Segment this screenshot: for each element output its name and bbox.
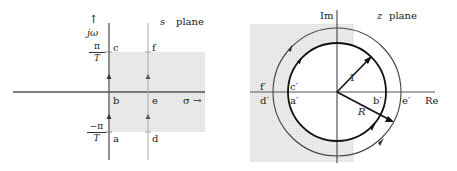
t-denominator: T	[87, 133, 106, 143]
s-plane-title-word: plane	[176, 17, 204, 27]
point-c: c	[113, 43, 119, 53]
s-plane	[13, 23, 205, 160]
point-e: e	[152, 96, 158, 106]
point-b: b	[113, 96, 119, 106]
point-a-prime: a′	[290, 96, 298, 106]
arrowhead-icon	[385, 116, 394, 122]
diagram-canvas	[0, 0, 457, 171]
sigma-axis-label: σ →	[183, 96, 201, 106]
point-d: d	[152, 134, 158, 144]
pi-over-t-tick-label: π T	[89, 42, 105, 63]
point-b-prime: b′	[373, 96, 382, 106]
neg-pi-over-t-tick-label: −π T	[87, 122, 106, 143]
jw-axis-arrow-icon: ↑	[89, 14, 98, 25]
point-d-prime: d′	[260, 96, 269, 106]
z-plane-title-var: z	[377, 11, 382, 21]
point-f-prime: f′	[260, 82, 266, 92]
neg-pi-numerator: −π	[87, 122, 106, 133]
pi-numerator: π	[89, 42, 105, 53]
point-f: f	[152, 43, 156, 53]
im-axis-label: Im	[320, 11, 333, 21]
jw-axis-label: jω	[87, 28, 98, 38]
unit-radius-label: 1	[349, 73, 355, 83]
point-a: a	[113, 134, 119, 144]
point-e-prime: e′	[402, 96, 410, 106]
z-plane	[250, 10, 435, 163]
outer-radius-label: R	[358, 107, 366, 117]
t-denominator: T	[89, 53, 105, 63]
z-plane-title-word: plane	[389, 11, 417, 21]
re-axis-label: Re	[425, 96, 438, 106]
point-c-prime: c′	[290, 82, 298, 92]
s-plane-title-var: s	[160, 17, 165, 27]
